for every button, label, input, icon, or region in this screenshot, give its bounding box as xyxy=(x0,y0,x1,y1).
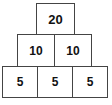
pyramid-cell: 5 xyxy=(72,66,108,98)
pyramid-row-bottom: 5 5 5 xyxy=(2,66,109,98)
pyramid-cell: 20 xyxy=(36,3,75,35)
pyramid-cell: 10 xyxy=(54,34,92,67)
pyramid-cell: 5 xyxy=(37,66,73,98)
number-pyramid-diagram: 20 10 10 5 5 5 xyxy=(0,0,112,105)
pyramid-cell: 10 xyxy=(17,34,55,67)
pyramid-row-top: 20 xyxy=(36,3,75,35)
pyramid-row-middle: 10 10 xyxy=(17,34,93,67)
pyramid-cell: 5 xyxy=(2,66,38,98)
